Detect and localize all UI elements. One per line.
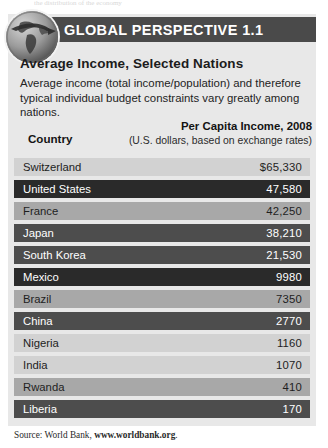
table-row: United States47,580 bbox=[14, 180, 310, 198]
row-income: 170 bbox=[283, 403, 302, 415]
column-header-income-line1: Per Capita Income, 2008 bbox=[129, 120, 312, 134]
section-body: Average income (total income/population)… bbox=[20, 76, 312, 120]
row-income: 1070 bbox=[276, 359, 302, 371]
row-country: South Korea bbox=[23, 249, 86, 261]
table-row: France42,250 bbox=[14, 202, 310, 220]
banner-bar: GLOBAL PERSPECTIVE 1.1 bbox=[43, 17, 316, 42]
income-table: Switzerland$65,330United States47,580Fra… bbox=[14, 158, 310, 422]
row-country: India bbox=[23, 359, 48, 371]
row-country: France bbox=[23, 205, 58, 217]
column-header-country: Country bbox=[28, 132, 72, 145]
row-income: 47,580 bbox=[266, 183, 302, 195]
row-income: 42,250 bbox=[266, 205, 302, 217]
table-row: Liberia170 bbox=[14, 400, 310, 418]
row-country: Switzerland bbox=[23, 161, 81, 173]
source-note: Source: World Bank, www.worldbank.org. bbox=[14, 430, 178, 440]
row-income: 7350 bbox=[276, 293, 302, 305]
table-row: South Korea21,530 bbox=[14, 246, 310, 264]
source-prefix: Source: World Bank, bbox=[14, 430, 94, 440]
row-country: China bbox=[23, 315, 53, 327]
row-income: 1160 bbox=[277, 337, 302, 349]
section-title: Average Income, Selected Nations bbox=[20, 56, 243, 71]
column-header-income: Per Capita Income, 2008 (U.S. dollars, b… bbox=[129, 120, 312, 147]
row-income: $65,330 bbox=[260, 161, 302, 173]
row-country: Japan bbox=[23, 227, 54, 239]
table-row: Switzerland$65,330 bbox=[14, 158, 310, 176]
row-country: Nigeria bbox=[23, 337, 59, 349]
row-income: 38,210 bbox=[266, 227, 302, 239]
banner-title: GLOBAL PERSPECTIVE 1.1 bbox=[64, 22, 264, 38]
column-header-income-line2: (U.S. dollars, based on exchange rates) bbox=[129, 134, 312, 148]
clipped-page-text: the distribution of the economy bbox=[34, 0, 220, 6]
table-row: Mexico9980 bbox=[14, 268, 310, 286]
table-row: India1070 bbox=[14, 356, 310, 374]
row-country: Mexico bbox=[23, 271, 59, 283]
table-row: Nigeria1160 bbox=[14, 334, 310, 352]
row-income: 2770 bbox=[276, 315, 302, 327]
row-income: 9980 bbox=[276, 271, 302, 283]
table-row: Brazil7350 bbox=[14, 290, 310, 308]
source-url: www.worldbank.org bbox=[94, 430, 175, 440]
source-suffix: . bbox=[175, 430, 177, 440]
row-country: Liberia bbox=[23, 403, 57, 415]
table-row: China2770 bbox=[14, 312, 310, 330]
row-country: Brazil bbox=[23, 293, 51, 305]
table-row: Japan38,210 bbox=[14, 224, 310, 242]
row-income: 21,530 bbox=[266, 249, 302, 261]
row-income: 410 bbox=[283, 381, 302, 393]
row-country: Rwanda bbox=[23, 381, 64, 393]
row-country: United States bbox=[23, 183, 91, 195]
table-row: Rwanda410 bbox=[14, 378, 310, 396]
